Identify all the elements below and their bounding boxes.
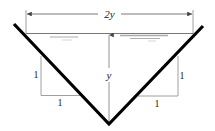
triangular-channel-diagram: 2y y 1 1 1 1: [0, 0, 215, 131]
left-slope-vertical-label: 1: [34, 69, 39, 80]
top-width-label: 2y: [104, 8, 115, 20]
right-slope-horizontal-label: 1: [155, 98, 160, 109]
depth-label: y: [106, 69, 112, 81]
right-slope-vertical-label: 1: [180, 70, 185, 81]
water-surface: [26, 34, 193, 42]
right-slope-indicator: [138, 56, 178, 96]
left-slope-horizontal-label: 1: [58, 97, 63, 108]
